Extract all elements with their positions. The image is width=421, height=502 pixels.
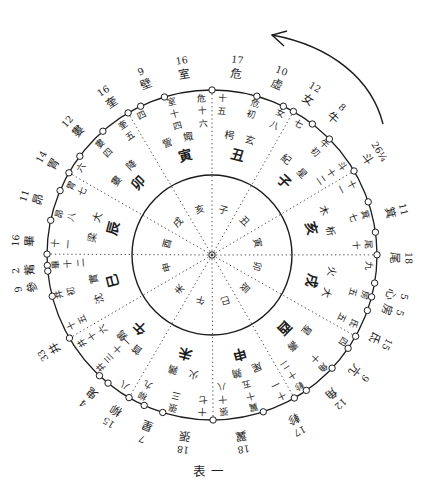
station-initial-degree-label: 井 (74, 336, 88, 350)
station-name-char: 娵 (182, 129, 194, 143)
mansion-width-number: 7 (137, 433, 147, 445)
station-end-degree-label: 五 (76, 313, 89, 326)
station-name-char: 尾 (250, 360, 263, 374)
mansion-name-label: 星 (139, 418, 154, 435)
mansion-name-label: 柳 (108, 402, 125, 420)
mansion-width-number: 9 (12, 285, 24, 293)
station-initial-degree-label: 二 (314, 174, 327, 187)
station-name-char: 梁 (85, 231, 98, 243)
station-initial-degree-label: 十 (62, 259, 74, 269)
month-branch-label: 午 (129, 317, 150, 338)
station-boundary-mark (374, 252, 380, 258)
station-initial-degree-label: 奎 (116, 118, 130, 132)
station-initial-degree-label: 胃 (65, 180, 78, 192)
station-name-char: 星 (294, 166, 309, 181)
month-branch-label: 丑 (229, 146, 247, 165)
arrow-arc (272, 35, 383, 124)
figure-page: 斗十二十一牛初星紀子丑女八七危初玄枵丑子危十六十五室十四娵訾寅亥奎五四婁四降婁卯… (0, 0, 421, 502)
station-name-char: 首 (129, 343, 144, 359)
station-end-degree-label: 九 (363, 260, 374, 270)
station-initial-degree-label: 十 (85, 329, 99, 343)
mansion-name-label: 女 (299, 90, 316, 108)
station-boundary-mark (290, 108, 296, 114)
station-mid-degree-label: 昴 (53, 208, 65, 219)
mansion-boundary-mark (57, 187, 63, 193)
mansion-name-label: 參 (24, 279, 40, 293)
station-boundary-line (212, 255, 213, 420)
mansion-width-number: 9 (136, 65, 146, 77)
station-name-char: 析 (324, 225, 338, 237)
station-end-degree-label: 十 (218, 92, 228, 104)
month-branch-label: 未 (176, 345, 194, 364)
mansion-boundary-mark (371, 280, 377, 286)
chen-branch-label: 寅 (251, 236, 264, 249)
mansion-name-label: 觜 (22, 264, 37, 276)
mansion-name-label: 翼 (235, 428, 248, 444)
station-end-degree-label: 十 (198, 406, 208, 418)
chart-svg: 斗十二十一牛初星紀子丑女八七危初玄枵丑子危十六十五室十四娵訾寅亥奎五四婁四降婁卯… (0, 0, 421, 502)
station-initial-degree-label: 尾 (363, 240, 374, 250)
month-branch-label: 戌 (302, 272, 321, 290)
station-end-degree-label: 十 (49, 239, 61, 249)
chen-branch-label: 亥 (193, 203, 206, 216)
chen-branch-label: 丑 (237, 214, 252, 229)
mansion-boundary-mark (345, 345, 351, 351)
station-end-degree-label: 十 (275, 389, 288, 403)
mansion-boundary-mark (47, 217, 53, 223)
chen-branch-label: 酉 (160, 237, 173, 249)
station-mid-degree-label: 五 (241, 378, 252, 390)
mansion-boundary-mark (141, 402, 147, 408)
station-name-char: 枵 (223, 128, 235, 141)
chen-branch-label: 子 (217, 203, 229, 216)
mansion-width-number: 16 (175, 54, 189, 67)
station-initial-degree-label: 六 (95, 322, 109, 336)
mansion-width-number: 4 (77, 397, 89, 409)
station-end-degree-label: 六 (74, 161, 88, 175)
mansion-boundary-mark (161, 94, 167, 100)
station-name-char: 玄 (243, 132, 256, 147)
station-initial-degree-label: 二 (279, 358, 292, 371)
station-mid-degree-label: 五 (347, 286, 359, 297)
station-mid-degree-label: 張 (167, 402, 178, 414)
station-mid-degree-label: 四 (172, 120, 183, 132)
station-initial-degree-label: 十 (286, 369, 300, 383)
mansion-name-label: 箕 (382, 206, 398, 220)
station-name-char: 鶉 (166, 363, 179, 378)
station-name-char: 婁 (108, 173, 124, 188)
station-boundary-mark (66, 335, 72, 341)
station-initial-degree-label: 柳 (136, 389, 149, 403)
station-boundary-mark (125, 110, 131, 116)
mansion-boundary-mark (77, 153, 83, 159)
station-initial-degree-label: 十 (351, 240, 363, 250)
station-name-char: 火 (188, 368, 200, 380)
chen-branch-label: 午 (194, 294, 207, 307)
mansion-name-label: 尾 (388, 252, 402, 263)
station-initial-degree-label: 七 (76, 185, 89, 197)
mansion-width-number: 18 (176, 444, 190, 457)
mansion-width-number: 18 (237, 443, 251, 456)
station-initial-degree-label: 十 (325, 166, 339, 180)
mansion-boundary-mark (329, 365, 335, 371)
station-initial-degree-label: 氐 (347, 317, 360, 329)
station-name-char: 沈 (91, 292, 106, 306)
month-branch-label: 巳 (103, 272, 122, 290)
station-initial-degree-label: 五 (336, 311, 349, 323)
station-end-degree-label: 一 (269, 378, 281, 391)
month-branch-label: 子 (274, 171, 295, 192)
station-end-degree-label: 一 (63, 240, 74, 250)
station-initial-degree-label: 十 (198, 105, 208, 117)
station-name-char: 木 (318, 204, 332, 217)
mansion-width-number: 9 (359, 373, 371, 385)
mansion-width-number: 18 (403, 252, 414, 264)
mansion-name-label: 壁 (138, 76, 153, 93)
station-boundary-line (47, 254, 212, 255)
station-end-degree-label: 四 (135, 108, 148, 121)
station-boundary-mark (291, 395, 297, 401)
station-initial-degree-label: 八 (217, 381, 227, 392)
station-initial-degree-label: 危 (197, 92, 207, 104)
mansion-name-label: 畢 (22, 235, 37, 247)
mansion-boundary-mark (260, 409, 266, 415)
station-name-char: 壽 (285, 338, 300, 354)
station-name-char: 紀 (279, 151, 294, 167)
station-boundary-mark (66, 170, 72, 176)
